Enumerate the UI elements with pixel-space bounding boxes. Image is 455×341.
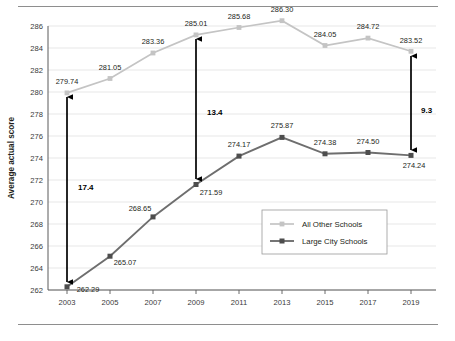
data-label: 271.59 [200,188,223,197]
data-label: 268.65 [129,204,152,213]
gap-annotation-label: 13.4 [207,108,223,117]
gap-annotation-label: 9.3 [421,106,433,115]
data-label: 275.87 [271,121,294,130]
y-tick-label: 280 [30,88,43,97]
data-label: 279.74 [56,77,79,86]
chart-figure: 262 264 266 268 270 272 274 276 278 280 … [0,0,455,341]
legend-swatch-marker-all-other-schools [280,222,285,227]
legend-label-all-other-schools: All Other Schools [302,220,362,229]
x-tick-label: 2017 [360,298,377,307]
y-tick-label: 264 [30,264,43,273]
data-label: 285.68 [228,12,251,21]
data-label: 274.24 [403,161,426,170]
y-tick-label: 266 [30,242,43,251]
y-tick-label: 268 [30,220,43,229]
data-label: 262.29 [77,285,100,294]
y-tick-label: 284 [30,44,43,53]
x-tick-label: 2005 [102,298,119,307]
y-tick-label: 282 [30,66,43,75]
x-tick-label: 2007 [145,298,162,307]
data-label: 274.38 [314,138,337,147]
data-label: 274.17 [228,140,251,149]
x-tick-label: 2011 [231,298,247,307]
y-tick-label: 286 [30,22,43,31]
data-label: 285.01 [185,19,208,28]
x-tick-label: 2009 [188,298,205,307]
line-chart-svg: 262 264 266 268 270 272 274 276 278 280 … [0,0,455,341]
legend-swatch-marker-large-city-schools [280,239,285,244]
chart-legend[interactable]: All Other Schools Large City Schools [262,210,387,254]
x-axis-ticks [67,290,411,294]
data-label: 284.72 [357,22,380,31]
y-tick-label: 274 [30,154,43,163]
y-tick-label: 276 [30,132,43,141]
gap-annotation-label: 17.4 [78,183,94,192]
legend-box [262,210,387,254]
x-tick-label: 2003 [59,298,76,307]
legend-label-large-city-schools: Large City Schools [302,237,368,246]
x-tick-label: 2015 [317,298,334,307]
data-label: 274.50 [357,137,380,146]
data-label: 286.30 [271,5,294,14]
y-tick-label: 262 [30,286,43,295]
data-label: 283.36 [142,37,165,46]
y-tick-label: 278 [30,110,43,119]
data-label: 281.05 [99,63,122,72]
x-tick-label: 2019 [403,298,420,307]
y-tick-label: 270 [30,198,43,207]
data-label: 284.05 [314,30,337,39]
y-tick-label: 272 [30,176,43,185]
y-tick-labels: 262 264 266 268 270 272 274 276 278 280 … [30,22,43,295]
data-label: 265.07 [114,258,137,267]
x-tick-label: 2013 [274,298,291,307]
y-axis-title: Average actual score [7,117,16,200]
data-label: 283.52 [400,36,423,45]
x-tick-labels: 2003 2005 2007 2009 2011 2013 2015 2017 … [59,298,420,307]
